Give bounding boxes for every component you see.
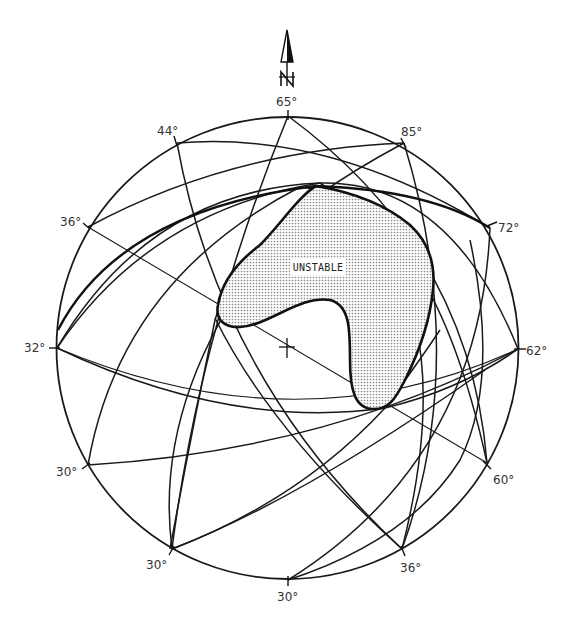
dip-label-30-sw1: 30°	[146, 558, 167, 572]
dip-label-85: 85°	[401, 125, 422, 139]
dip-label-30-sw2: 30°	[56, 465, 77, 479]
dip-label-36-nw: 36°	[60, 215, 81, 229]
stereonet-diagram: UNSTABLE 65° 85° 72° 62° 60° 36° 30° 30°…	[0, 0, 571, 624]
dip-labels: 65° 85° 72° 62° 60° 36° 30° 30° 30° 32° …	[24, 95, 547, 604]
dip-label-32: 32°	[24, 341, 45, 355]
dip-label-62: 62°	[526, 344, 547, 358]
unstable-label: UNSTABLE	[293, 262, 344, 273]
dip-label-60: 60°	[493, 473, 514, 487]
dip-label-72: 72°	[498, 221, 519, 235]
dip-label-44: 44°	[157, 124, 178, 138]
dip-label-36-se: 36°	[400, 561, 421, 575]
dip-label-65: 65°	[276, 95, 297, 109]
unstable-region	[217, 186, 433, 409]
north-arrow-icon	[279, 30, 295, 86]
dip-label-30-s: 30°	[277, 590, 298, 604]
